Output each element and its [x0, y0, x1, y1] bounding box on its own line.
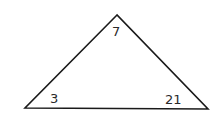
label-bottom-right-vertex: 21	[165, 92, 182, 107]
label-top-vertex: 7	[112, 24, 120, 39]
triangle-diagram: 7 3 21	[0, 0, 216, 123]
label-bottom-left-vertex: 3	[50, 91, 58, 106]
